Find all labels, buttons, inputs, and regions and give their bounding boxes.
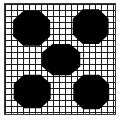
blob-group <box>13 9 109 109</box>
plot-frame <box>4 3 116 115</box>
blob-mark-bottom-left <box>14 75 51 109</box>
figure-root <box>0 0 126 124</box>
blob-layer <box>5 4 115 114</box>
blob-mark-bottom-right <box>73 75 109 110</box>
blob-svg <box>5 4 115 114</box>
blob-mark-center <box>42 44 80 75</box>
blob-mark-top-left <box>13 11 50 46</box>
blob-mark-top-right <box>73 9 109 44</box>
